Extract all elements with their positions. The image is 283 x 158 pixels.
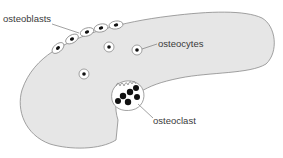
diagram-canvas: osteoblasts osteocytes osteoclast [0, 0, 283, 158]
label-osteoclast: osteoclast [153, 115, 196, 126]
bone-matrix [20, 12, 274, 148]
osteocyte-cell [132, 45, 142, 55]
osteoclast-cell [112, 81, 144, 111]
osteocyte-cell [79, 69, 89, 79]
bone-cells-diagram: osteoblasts osteocytes osteoclast [0, 0, 283, 158]
osteocyte-cell [104, 42, 114, 52]
osteoclast-leader-line [138, 104, 153, 118]
label-osteocytes: osteocytes [158, 38, 204, 49]
osteoblasts-leader-line [52, 24, 79, 33]
label-osteoblasts: osteoblasts [3, 13, 51, 24]
